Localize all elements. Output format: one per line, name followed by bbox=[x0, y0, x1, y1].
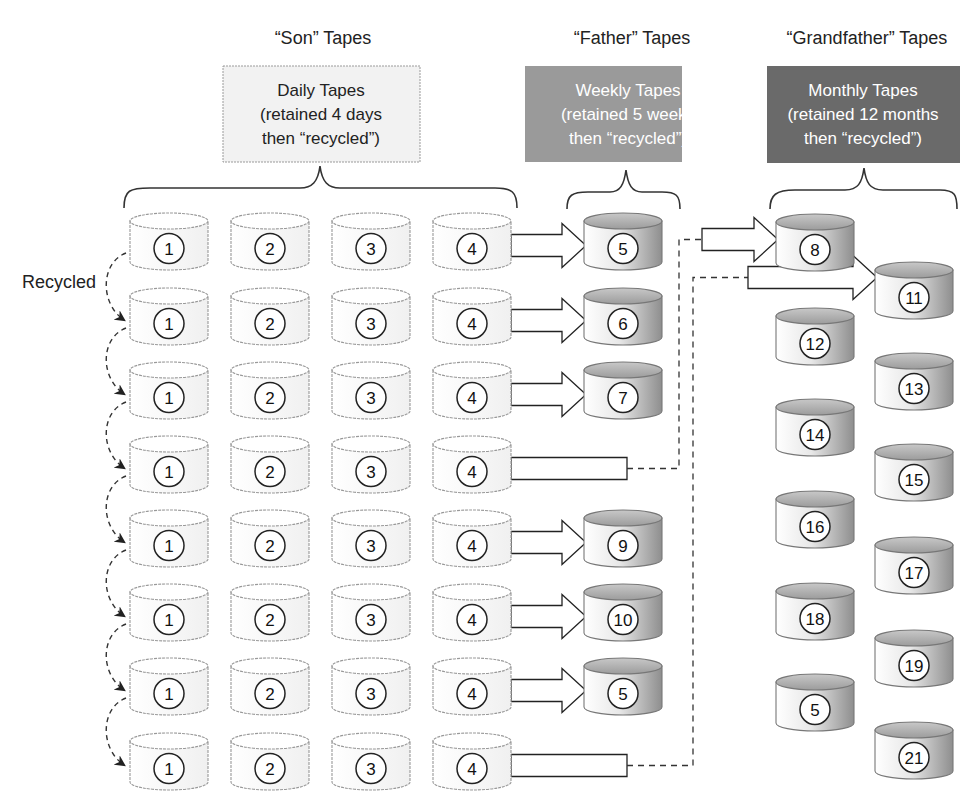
recycle-arrow bbox=[106, 253, 126, 320]
weekly-tapes-box: Weekly Tapes (retained 5 weeks then “rec… bbox=[525, 66, 695, 162]
tape-top bbox=[584, 584, 662, 600]
tape-number: 4 bbox=[467, 240, 476, 259]
tape-top bbox=[130, 213, 208, 229]
tape-top bbox=[584, 362, 662, 378]
tape-top bbox=[332, 213, 410, 229]
monthly-tape-14: 14 bbox=[776, 399, 854, 456]
tape-top bbox=[130, 510, 208, 526]
tape-number: 3 bbox=[366, 463, 375, 482]
monthly-tape-16: 16 bbox=[776, 491, 854, 548]
tape-top bbox=[433, 362, 511, 378]
tape-number: 1 bbox=[164, 315, 173, 334]
tape-top bbox=[875, 537, 953, 553]
daily-tape-r5-c3: 3 bbox=[332, 510, 410, 567]
tape-top bbox=[130, 362, 208, 378]
weekly-box-line2: (retained 5 weeks bbox=[561, 105, 695, 124]
tape-number: 2 bbox=[265, 463, 274, 482]
tape-number: 4 bbox=[467, 760, 476, 779]
tape-number: 13 bbox=[905, 380, 924, 399]
tape-number: 4 bbox=[467, 463, 476, 482]
tape-top bbox=[875, 722, 953, 738]
tape-top bbox=[332, 584, 410, 600]
grandfather-heading: “Grandfather” Tapes bbox=[787, 28, 948, 48]
tape-number: 1 bbox=[164, 389, 173, 408]
weekly-tape-row6: 10 bbox=[584, 584, 662, 641]
tape-top bbox=[231, 510, 309, 526]
daily-box-line3: then “recycled”) bbox=[262, 129, 380, 148]
monthly-tape-5: 5 bbox=[776, 674, 854, 731]
daily-tape-r8-c2: 2 bbox=[231, 733, 309, 790]
weekly-tape-row7: 5 bbox=[584, 658, 662, 715]
daily-tape-r2-c3: 3 bbox=[332, 288, 410, 345]
daily-tape-r4-c2: 2 bbox=[231, 436, 309, 493]
tape-top bbox=[332, 733, 410, 749]
tape-top bbox=[231, 288, 309, 304]
tape-top bbox=[231, 584, 309, 600]
tape-top bbox=[332, 510, 410, 526]
tape-top bbox=[776, 583, 854, 599]
monthly-link-dashed-8 bbox=[627, 240, 702, 469]
tape-top bbox=[231, 733, 309, 749]
tape-top bbox=[332, 658, 410, 674]
tape-number: 1 bbox=[164, 760, 173, 779]
tape-top bbox=[433, 658, 511, 674]
tape-top bbox=[875, 262, 953, 278]
tape-top bbox=[231, 362, 309, 378]
tape-number: 15 bbox=[905, 471, 924, 490]
daily-tape-r3-c4: 4 bbox=[433, 362, 511, 419]
daily-to-weekly-arrow-row2 bbox=[511, 299, 586, 343]
daily-tape-r3-c3: 3 bbox=[332, 362, 410, 419]
tape-top bbox=[584, 288, 662, 304]
tape-number: 4 bbox=[467, 389, 476, 408]
tape-number: 6 bbox=[618, 315, 627, 334]
daily-tape-r6-c3: 3 bbox=[332, 584, 410, 641]
tape-number: 14 bbox=[806, 426, 825, 445]
tape-top bbox=[875, 444, 953, 460]
tape-number: 2 bbox=[265, 389, 274, 408]
tape-number: 18 bbox=[806, 610, 825, 629]
tape-number: 3 bbox=[366, 240, 375, 259]
recycle-arrow bbox=[106, 550, 126, 616]
tape-top bbox=[433, 213, 511, 229]
tape-number: 3 bbox=[366, 760, 375, 779]
tape-number: 3 bbox=[366, 389, 375, 408]
daily-tape-r1-c1: 1 bbox=[130, 213, 208, 270]
tape-number: 16 bbox=[806, 518, 825, 537]
monthly-box-line1: Monthly Tapes bbox=[808, 81, 917, 100]
weekly-tape-row5: 9 bbox=[584, 510, 662, 567]
tape-top bbox=[332, 436, 410, 452]
daily-to-weekly-arrow-row7 bbox=[511, 669, 586, 713]
monthly-arrow-to-8 bbox=[702, 218, 778, 262]
daily-tape-r5-c4: 4 bbox=[433, 510, 511, 567]
tape-top bbox=[231, 213, 309, 229]
tape-top bbox=[875, 630, 953, 646]
daily-to-monthly-bar-row8 bbox=[511, 755, 627, 777]
monthly-tape-21: 21 bbox=[875, 722, 953, 779]
recycled-label: Recycled bbox=[22, 272, 96, 292]
tape-top bbox=[776, 214, 854, 230]
daily-tape-r3-c1: 1 bbox=[130, 362, 208, 419]
daily-to-weekly-arrow-row5 bbox=[511, 521, 586, 565]
tape-number: 2 bbox=[265, 685, 274, 704]
daily-tape-r8-c4: 4 bbox=[433, 733, 511, 790]
tape-top bbox=[584, 658, 662, 674]
daily-tape-r3-c2: 2 bbox=[231, 362, 309, 419]
weekly-tape-row1: 5 bbox=[584, 213, 662, 270]
recycle-arrow bbox=[106, 698, 126, 765]
daily-tape-r8-c3: 3 bbox=[332, 733, 410, 790]
tape-top bbox=[433, 584, 511, 600]
tape-top bbox=[231, 658, 309, 674]
monthly-tape-19: 19 bbox=[875, 630, 953, 687]
tape-number: 8 bbox=[810, 241, 819, 260]
daily-tape-r2-c1: 1 bbox=[130, 288, 208, 345]
tape-top bbox=[776, 674, 854, 690]
daily-tape-r6-c2: 2 bbox=[231, 584, 309, 641]
father-heading: “Father” Tapes bbox=[574, 28, 691, 48]
weekly-tape-row2: 6 bbox=[584, 288, 662, 345]
tape-top bbox=[130, 733, 208, 749]
tape-number: 1 bbox=[164, 537, 173, 556]
daily-tape-r2-c2: 2 bbox=[231, 288, 309, 345]
gfs-backup-diagram: “Son” Tapes “Father” Tapes “Grandfather”… bbox=[0, 0, 979, 804]
tape-top bbox=[776, 491, 854, 507]
monthly-tape-12: 12 bbox=[776, 308, 854, 365]
